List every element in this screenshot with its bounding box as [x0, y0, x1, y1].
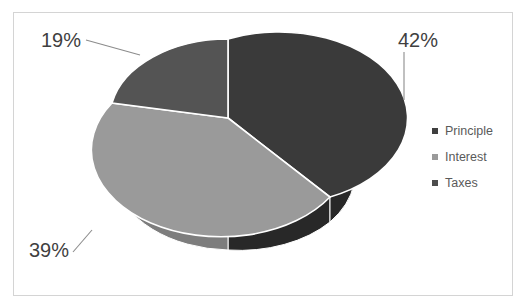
legend-swatch-taxes [432, 180, 438, 186]
chart-legend: Principle Interest Taxes [432, 118, 512, 196]
legend-swatch-interest [432, 154, 438, 160]
legend-swatch-principle [432, 128, 438, 134]
leader-line-39 [73, 230, 92, 252]
data-label-taxes: 19% [41, 30, 81, 50]
legend-item-principle[interactable]: Principle [432, 118, 512, 144]
data-label-interest: 39% [29, 240, 69, 260]
leader-line-19 [86, 40, 140, 55]
pie-chart: 19% 42% 39% Principle Interest Taxes [0, 0, 529, 308]
legend-label-principle: Principle [445, 124, 493, 138]
legend-label-taxes: Taxes [445, 176, 478, 190]
legend-item-taxes[interactable]: Taxes [432, 170, 512, 196]
legend-item-interest[interactable]: Interest [432, 144, 512, 170]
legend-label-interest: Interest [445, 150, 487, 164]
data-label-principle: 42% [398, 30, 438, 50]
